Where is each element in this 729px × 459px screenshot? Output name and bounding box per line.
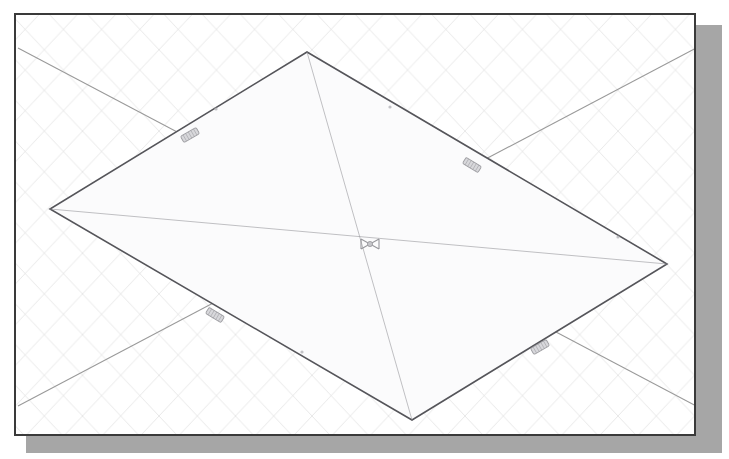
- modeling-viewport[interactable]: [14, 13, 696, 436]
- edge-dot-upper-right: [388, 105, 391, 108]
- edge-dot-right: [616, 235, 619, 238]
- edge-dot-bottom: [300, 350, 303, 353]
- edge-dot-upper-left: [214, 107, 217, 110]
- viewport-drawing-canvas[interactable]: [16, 15, 694, 434]
- screenshot-root: [0, 0, 729, 459]
